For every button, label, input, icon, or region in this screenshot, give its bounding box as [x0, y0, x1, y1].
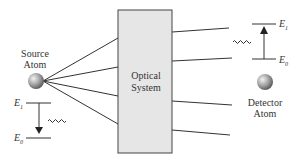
detector-atom-label: Detector Atom: [240, 97, 290, 119]
detector-atom-icon: [257, 74, 273, 90]
diagram-canvas: Source Atom Detector Atom Optical System…: [0, 0, 302, 163]
emitted-photon-wave-icon: [48, 120, 66, 123]
source-atom-label: Source Atom: [10, 48, 60, 70]
absorbed-photon-wave-icon: [233, 41, 251, 44]
source-e1-label: E1: [14, 98, 23, 112]
optical-system-label: Optical System: [118, 70, 174, 94]
absorption-arrow-icon: [260, 26, 268, 34]
source-atom-icon: [28, 73, 44, 89]
source-e0-label: E0: [14, 133, 23, 147]
detector-e1-label: E1: [279, 19, 288, 33]
output-rays: [172, 28, 232, 135]
detector-e0-label: E0: [279, 55, 288, 69]
emission-arrow-icon: [35, 127, 43, 134]
